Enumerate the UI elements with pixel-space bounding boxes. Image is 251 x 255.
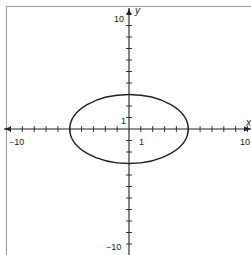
x-unit-label: 1 xyxy=(139,137,144,147)
x-max-label: 10 xyxy=(240,137,250,147)
x-min-label: −10 xyxy=(9,137,24,147)
x-axis-arrow-left-icon xyxy=(4,127,11,132)
x-axis-label: x xyxy=(245,117,251,128)
y-unit-label: 1 xyxy=(121,116,126,126)
y-max-label: 10 xyxy=(114,14,124,24)
chart-plot: −10 10 1 10 −10 1 y x xyxy=(0,0,251,255)
y-axis-label: y xyxy=(134,5,141,16)
y-min-label: −10 xyxy=(106,242,121,252)
axes xyxy=(4,8,251,255)
